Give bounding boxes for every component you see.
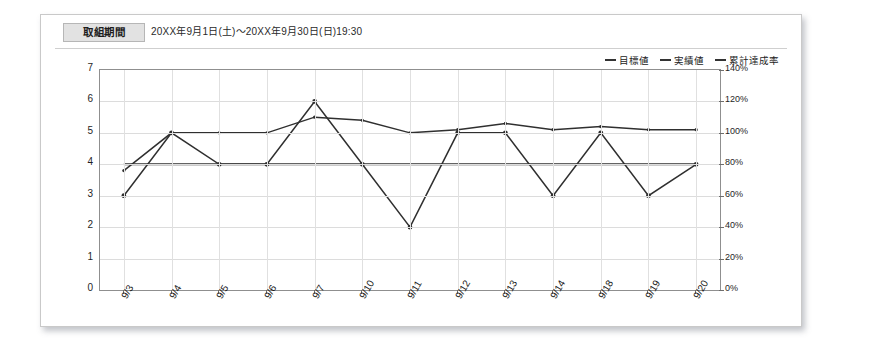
y-axis-tick-label: 7 — [67, 62, 93, 73]
y-axis-tick-label: 2 — [67, 219, 93, 230]
gridline-v — [696, 70, 697, 290]
header-divider — [55, 48, 787, 49]
gridline-v — [267, 70, 268, 290]
y2-axis-tick — [719, 290, 724, 291]
chart-card: 取組期間 20XX年9月1日(土)〜20XX年9月30日(日)19:30 目標値… — [40, 14, 802, 327]
y-axis-tick-label: 3 — [67, 188, 93, 199]
gridline-v — [458, 70, 459, 290]
gridline-v — [172, 70, 173, 290]
gridline-v — [219, 70, 220, 290]
gridline-v — [601, 70, 602, 290]
y-axis-tick-label: 6 — [67, 93, 93, 104]
y-axis-tick-label: 0 — [67, 282, 93, 293]
y2-axis-tick — [719, 70, 724, 71]
y2-axis-tick-label: 60% — [725, 189, 765, 199]
y2-axis-tick — [719, 133, 724, 134]
y2-axis-tick-label: 140% — [725, 63, 765, 73]
y2-axis-tick-label: 20% — [725, 252, 765, 262]
gridline-v — [124, 70, 125, 290]
y2-axis-tick — [719, 196, 724, 197]
y2-axis-tick-label: 80% — [725, 157, 765, 167]
y2-axis-tick — [719, 259, 724, 260]
gridline-v — [410, 70, 411, 290]
y2-axis-tick-label: 0% — [725, 283, 765, 293]
plot-area: 012345670%20%40%60%80%100%120%140%9/39/4… — [41, 61, 801, 316]
y2-axis-tick — [719, 101, 724, 102]
y2-axis-tick-label: 120% — [725, 94, 765, 104]
gridline-v — [553, 70, 554, 290]
gridline-v — [315, 70, 316, 290]
plot-frame — [99, 69, 721, 291]
y2-axis-tick — [719, 164, 724, 165]
y2-axis-tick — [719, 227, 724, 228]
y2-axis-tick-label: 40% — [725, 220, 765, 230]
period-value: 20XX年9月1日(土)〜20XX年9月30日(日)19:30 — [151, 23, 362, 40]
y-axis-tick-label: 1 — [67, 251, 93, 262]
period-label: 取組期間 — [63, 23, 145, 42]
y-axis-tick-label: 5 — [67, 125, 93, 136]
y-axis-tick-label: 4 — [67, 156, 93, 167]
chart-header: 取組期間 20XX年9月1日(土)〜20XX年9月30日(日)19:30 — [41, 15, 801, 51]
gridline-v — [362, 70, 363, 290]
gridline-v — [648, 70, 649, 290]
gridline-v — [505, 70, 506, 290]
y2-axis-tick-label: 100% — [725, 126, 765, 136]
